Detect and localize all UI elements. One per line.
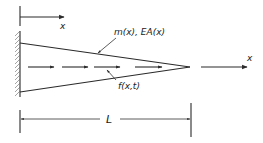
length-dimension: L <box>20 103 191 137</box>
properties-label: m(x), EA(x) <box>114 27 165 37</box>
properties-callout: m(x), EA(x) <box>98 27 165 53</box>
fixed-wall <box>15 31 20 97</box>
leader-arrow-icon <box>98 38 116 53</box>
top-x-axis: x <box>20 6 66 31</box>
tapered-bar-diagram: x <box>0 0 263 143</box>
right-axis-label: x <box>246 53 253 63</box>
load-callout: f(x,t) <box>107 70 140 91</box>
length-label: L <box>106 113 112 126</box>
wall-hatch-icon <box>15 31 20 96</box>
top-axis-label: x <box>59 21 66 31</box>
right-x-axis: x <box>201 53 253 67</box>
load-label: f(x,t) <box>118 81 140 91</box>
